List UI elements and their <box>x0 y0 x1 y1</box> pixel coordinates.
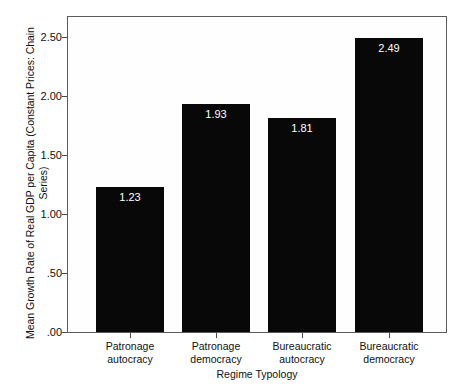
y-tick-label-0-50: .50 <box>26 268 62 279</box>
x-tick-label-bureaucratic-democracy: Bureaucratic democracy <box>334 340 444 365</box>
y-tick-label-0-00: .00 <box>26 327 62 338</box>
y-tick-label-1-50: 1.50 <box>26 150 62 161</box>
x-tick-mark-patronage-autocracy <box>130 333 131 338</box>
y-tick-label-2-00: 2.00 <box>26 91 62 102</box>
y-tick-label-1-00: 1.00 <box>26 209 62 220</box>
x-tick-mark-patronage-democracy <box>216 333 217 338</box>
y-tick-label-2-50: 2.50 <box>26 32 62 43</box>
x-tick-mark-bureaucratic-autocracy <box>302 333 303 338</box>
bar-chart: Mean Growth Rate of Real GDP per Capita … <box>0 0 458 390</box>
x-axis-title: Regime Typology <box>67 368 447 380</box>
page-edge-artifact <box>0 385 458 390</box>
y-axis-ticks: 2.50 2.00 1.50 1.00 .50 .00 <box>22 0 62 390</box>
x-tick-mark-bureaucratic-democracy <box>389 333 390 338</box>
plot-area <box>67 16 447 333</box>
